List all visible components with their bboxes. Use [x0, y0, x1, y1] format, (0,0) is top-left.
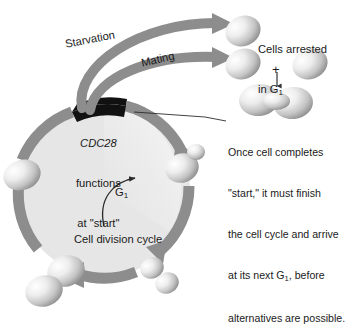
label-g1-subscript: 1 [124, 191, 128, 200]
ring-arc-bottom [78, 272, 136, 278]
label-g1: G1 [115, 186, 128, 200]
label-plus-sign: + [272, 62, 280, 77]
label-arrested-line2: in G1 [258, 83, 327, 97]
caption-line-1: Once cell completes [228, 146, 345, 160]
caption-line-2: "start," it must finish [228, 187, 345, 201]
caption-line-3: the cell cycle and arrive [228, 228, 345, 242]
label-cell-division-cycle: Cell division cycle [74, 233, 162, 246]
caption-block: Once cell completes "start," it must fin… [228, 118, 345, 328]
caption-line-5: alternatives are possible. [228, 312, 345, 326]
label-cdc28-at-start: at "start" [76, 217, 121, 230]
caption-line-4: at its next G1, before [228, 269, 345, 284]
label-arrested-line1: Cells arrested [258, 43, 327, 56]
label-cells-arrested: Cells arrested in G1 [258, 17, 327, 124]
label-cdc28-gene: CDC28 [76, 137, 121, 150]
